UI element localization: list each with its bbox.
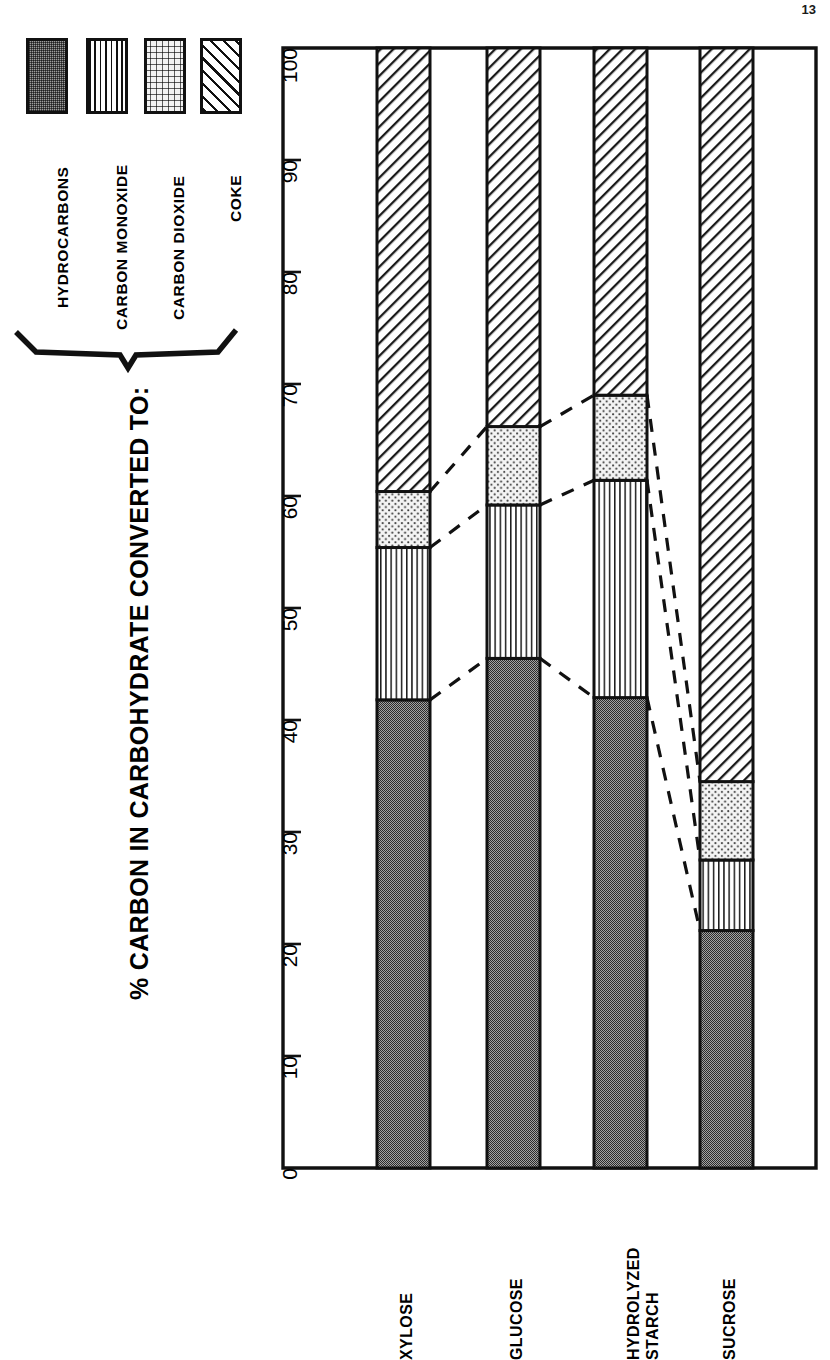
legend-label-carbon-dioxide: CARBON DIOXIDE — [170, 176, 188, 320]
chart-legend: HYDROCARBONS CARBON MONOXIDE CARBON DIOX… — [0, 0, 250, 1323]
legend-swatch-coke — [200, 38, 242, 114]
y-axis-tick-0: 0 — [278, 1168, 302, 1180]
bar-segment-coke[interactable] — [487, 48, 540, 427]
bar-segment-carbon-monoxide[interactable] — [487, 505, 540, 658]
y-axis-tick-70: 70 — [278, 384, 302, 407]
bar-segment-coke[interactable] — [377, 48, 430, 492]
curly-brace-icon — [10, 318, 242, 390]
x-axis-category-hydrolyzed-starch: HYDROLYZEDSTARCH — [624, 1247, 662, 1360]
bar-segment-carbon-dioxide[interactable] — [487, 427, 540, 505]
y-axis-tick-80: 80 — [278, 272, 302, 295]
y-axis-tick-labels: 0102030405060708090100 — [250, 0, 294, 1323]
y-axis-tick-20: 20 — [278, 944, 302, 967]
legend-label-coke: COKE — [227, 175, 245, 222]
x-axis-category-glucose: GLUCOSE — [507, 1278, 526, 1360]
y-axis-tick-60: 60 — [278, 496, 302, 519]
bar-segment-carbon-monoxide[interactable] — [594, 480, 647, 697]
segment-connector-lines — [430, 395, 700, 930]
bar-segment-coke[interactable] — [594, 48, 647, 395]
bar-segment-hydrocarbons[interactable] — [487, 658, 540, 1168]
chart-plot-area: 0102030405060708090100 XYLOSEGLUCOSEHYDR… — [250, 0, 830, 1323]
y-axis-tick-50: 50 — [278, 608, 302, 631]
legend-swatch-carbon-monoxide — [86, 38, 128, 114]
x-axis-category-xylose: XYLOSE — [397, 1293, 416, 1360]
bar-segment-hydrocarbons[interactable] — [700, 931, 753, 1168]
bar-xylose[interactable] — [377, 48, 430, 1168]
legend-swatch-carbon-dioxide — [144, 38, 186, 114]
bar-segment-carbon-dioxide[interactable] — [700, 782, 753, 860]
y-axis-tick-10: 10 — [278, 1056, 302, 1079]
legend-label-carbon-monoxide: CARBON MONOXIDE — [113, 164, 131, 330]
bar-hydrolyzed-starch[interactable] — [594, 48, 647, 1168]
legend-label-hydrocarbons: HYDROCARBONS — [54, 166, 72, 308]
bar-segment-hydrocarbons[interactable] — [377, 700, 430, 1168]
y-axis-tick-100: 100 — [278, 48, 302, 83]
bar-segment-hydrocarbons[interactable] — [594, 698, 647, 1168]
bar-segment-carbon-dioxide[interactable] — [377, 492, 430, 548]
bar-segment-carbon-monoxide[interactable] — [377, 548, 430, 700]
bar-segment-coke[interactable] — [700, 48, 753, 782]
chart-title: % CARBON IN CARBOHYDRATE CONVERTED TO: — [125, 387, 154, 1000]
y-axis-tick-30: 30 — [278, 832, 302, 855]
x-axis-category-sucrose: SUCROSE — [720, 1278, 739, 1360]
bar-segment-carbon-monoxide[interactable] — [700, 860, 753, 931]
bar-glucose[interactable] — [487, 48, 540, 1168]
y-axis-tick-40: 40 — [278, 720, 302, 743]
legend-swatch-hydrocarbons — [26, 38, 68, 114]
stacked-bar-chart-svg — [250, 0, 830, 1323]
bar-sucrose[interactable] — [700, 48, 753, 1168]
y-axis-tick-90: 90 — [278, 160, 302, 183]
bar-segment-carbon-dioxide[interactable] — [594, 395, 647, 480]
